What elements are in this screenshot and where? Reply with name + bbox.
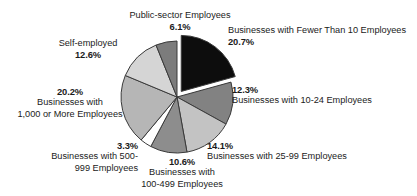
label-100-499-line1: Businesses with bbox=[130, 167, 234, 178]
label-businesses-25-99: 14.1% Businesses with 25-99 Employees bbox=[207, 140, 407, 163]
label-500-999-line1: Businesses with 500- bbox=[16, 151, 138, 162]
label-fewer-than-10-pct: 20.7% bbox=[228, 36, 416, 47]
label-self-employed-pct: 12.6% bbox=[28, 49, 148, 60]
label-1000-or-more-line2: 1,000 or More Employees bbox=[2, 109, 138, 120]
pie-chart-figure: Public-sector Employees 6.1% Self-employ… bbox=[0, 0, 417, 196]
label-self-employed-name: Self-employed bbox=[28, 38, 148, 49]
label-10-24-pct: 12.3% bbox=[232, 84, 414, 95]
label-1000-or-more-line1: Businesses with bbox=[2, 97, 138, 108]
label-500-999-pct: 3.3% bbox=[16, 140, 138, 151]
label-25-99-pct: 14.1% bbox=[207, 140, 407, 151]
label-public-sector-name: Public-sector Employees bbox=[105, 10, 255, 21]
label-businesses-1000-or-more: 20.2% Businesses with 1,000 or More Empl… bbox=[2, 86, 138, 120]
label-1000-or-more-pct: 20.2% bbox=[2, 86, 138, 97]
label-businesses-10-24: 12.3% Businesses with 10-24 Employees bbox=[232, 84, 414, 107]
label-businesses-500-999: 3.3% Businesses with 500- 999 Employees bbox=[16, 140, 138, 174]
label-10-24-name: Businesses with 10-24 Employees bbox=[232, 95, 414, 106]
label-25-99-name: Businesses with 25-99 Employees bbox=[207, 151, 407, 162]
label-self-employed: Self-employed 12.6% bbox=[28, 38, 148, 61]
label-500-999-line2: 999 Employees bbox=[16, 163, 138, 174]
label-100-499-line2: 100-499 Employees bbox=[130, 179, 234, 190]
label-businesses-fewer-than-10: Businesses with Fewer Than 10 Employees … bbox=[228, 25, 416, 48]
label-fewer-than-10-name: Businesses with Fewer Than 10 Employees bbox=[228, 25, 416, 36]
